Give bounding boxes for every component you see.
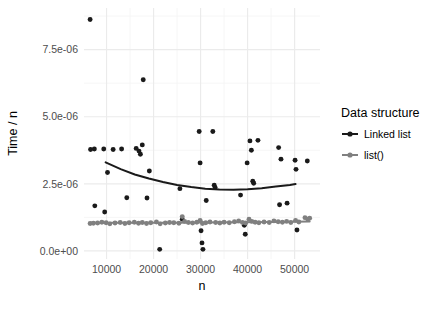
chart-container: 1000020000300004000050000 0.0e+002.5e-06…	[0, 0, 443, 310]
x-tick-label: 50000	[280, 263, 309, 275]
legend-title: Data structure	[341, 106, 420, 120]
scatter-plot: 1000020000300004000050000 0.0e+002.5e-06…	[0, 0, 443, 310]
legend-key-point	[347, 152, 352, 157]
y-axis-title: Time / n	[6, 111, 20, 156]
legend-item-label: list()	[364, 149, 384, 161]
x-tick-label: 30000	[186, 263, 215, 275]
y-tick-label: 7.5e-06	[42, 43, 78, 55]
x-axis-title: n	[199, 279, 206, 293]
y-tick-label: 5.0e-06	[42, 110, 78, 122]
x-tick-label: 10000	[92, 263, 121, 275]
y-tick-label: 2.5e-06	[42, 178, 78, 190]
x-tick-label: 40000	[233, 263, 262, 275]
x-tick-label: 20000	[139, 263, 168, 275]
legend-key-point	[347, 131, 352, 136]
legend-item-label: Linked list	[364, 128, 411, 140]
y-tick-label: 0.0e+00	[40, 245, 78, 257]
